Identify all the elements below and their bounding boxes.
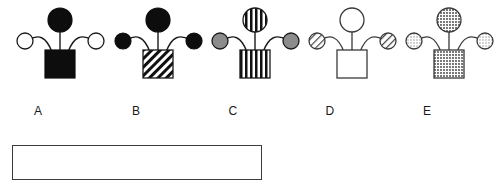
right-circle[interactable] <box>477 33 493 49</box>
top-circle[interactable] <box>340 8 364 32</box>
figure-label-e: E <box>407 104 447 118</box>
left-circle[interactable] <box>115 33 131 49</box>
structure-e[interactable] <box>389 0 501 100</box>
left-circle[interactable] <box>17 33 33 49</box>
answer-box[interactable] <box>12 145 262 180</box>
left-circle[interactable] <box>309 33 325 49</box>
body-square[interactable] <box>337 50 367 78</box>
body-square[interactable] <box>434 50 464 78</box>
figure-label-b: B <box>116 104 156 118</box>
figure-label-d: D <box>310 104 350 118</box>
body-square[interactable] <box>143 50 173 78</box>
figure-label-c: C <box>213 104 253 118</box>
top-circle[interactable] <box>48 8 72 32</box>
top-circle[interactable] <box>243 8 267 32</box>
left-circle[interactable] <box>406 33 422 49</box>
body-square[interactable] <box>240 50 270 78</box>
top-circle[interactable] <box>146 8 170 32</box>
body-square[interactable] <box>45 50 75 78</box>
diagram-canvas: A B C <box>0 0 501 188</box>
left-circle[interactable] <box>212 33 228 49</box>
top-circle[interactable] <box>437 8 461 32</box>
figure-label-a: A <box>18 104 58 118</box>
